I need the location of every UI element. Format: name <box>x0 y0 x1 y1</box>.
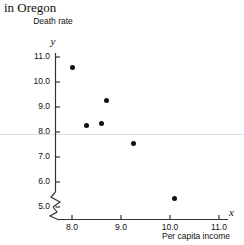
y-tick-label: 5.0 <box>22 202 50 211</box>
y-tick-label: 8.0 <box>22 127 50 136</box>
scatter-plot-figure: in Oregon Death rate y x Per capita inco… <box>0 0 244 245</box>
x-tick-label: 11.0 <box>205 223 233 232</box>
y-tick-label: 7.0 <box>22 152 50 161</box>
x-tick-label: 10.0 <box>156 223 184 232</box>
data-point <box>70 65 75 70</box>
y-tick-label: 6.0 <box>22 177 50 186</box>
data-point <box>131 141 136 146</box>
x-tick-label: 8.0 <box>58 223 86 232</box>
data-point <box>99 121 104 126</box>
y-tick-label: 10.0 <box>22 77 50 86</box>
y-tick-label: 11.0 <box>22 52 50 61</box>
x-tick-label: 9.0 <box>107 223 135 232</box>
y-tick-label: 9.0 <box>22 102 50 111</box>
